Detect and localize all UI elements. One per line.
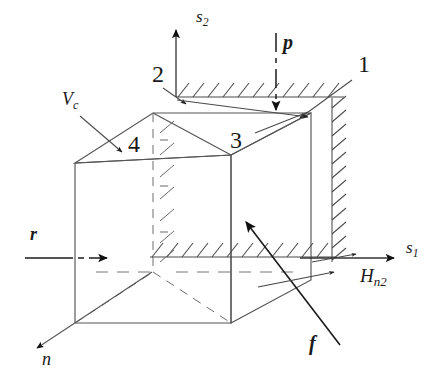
- axis-n: [37, 272, 152, 348]
- vector-label-r: r: [30, 224, 38, 244]
- cube-top-face: [75, 113, 311, 163]
- vector-f-line: [246, 222, 340, 345]
- callout-label-3: 3: [230, 127, 242, 153]
- leader-1-long: [255, 112, 308, 133]
- callout-label-vc: Vc: [62, 89, 79, 112]
- cube-hidden-edges: [75, 113, 231, 323]
- cube-body: [75, 113, 311, 323]
- axis-n-line: [37, 272, 152, 348]
- technical-diagram: s2 s1 n p r f Hn2 Vc 1 2 3 4: [0, 0, 444, 386]
- vector-Hn2: [258, 272, 334, 287]
- vector-label-Hn2-base: H: [359, 265, 375, 286]
- vector-Hn2-line: [258, 272, 334, 287]
- callout-label-1: 1: [358, 51, 370, 77]
- axis-label-s1-sub: 1: [413, 247, 419, 260]
- axis-label-n: n: [42, 349, 51, 369]
- cube-chamfer-edge: [153, 113, 231, 155]
- axis-label-s1: s1: [406, 238, 418, 260]
- vector-f: [246, 222, 340, 345]
- vector-label-Hn2: Hn2: [359, 265, 387, 289]
- leader-2-long: [177, 100, 308, 117]
- vector-label-p: p: [281, 31, 293, 54]
- vector-label-f: f: [309, 332, 318, 355]
- callout-label-vc-sub: c: [73, 98, 79, 112]
- hatching-right-wall: [332, 96, 346, 262]
- hatching-bottom-wall: [150, 243, 336, 257]
- callout-label-4: 4: [128, 131, 140, 157]
- figure-container: s2 s1 n p r f Hn2 Vc 1 2 3 4: [0, 0, 444, 386]
- axis-s1: [300, 254, 394, 262]
- axis-label-s2: s2: [196, 7, 209, 29]
- hatching-top-wall: [176, 83, 344, 97]
- vector-label-Hn2-sub: n2: [374, 274, 387, 289]
- axis-label-s2-sub: 2: [203, 16, 209, 29]
- callout-label-2: 2: [152, 61, 164, 87]
- hatching-inner-wall: [160, 121, 174, 262]
- hidden-floor-right: [153, 272, 231, 323]
